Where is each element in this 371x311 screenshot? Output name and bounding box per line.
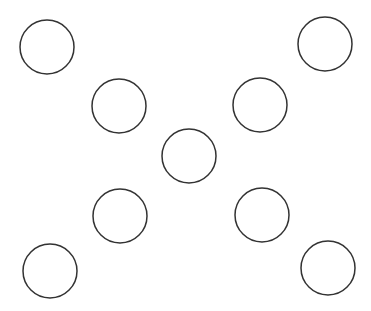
circle-x-pattern (0, 0, 371, 311)
circle-9 (301, 241, 355, 295)
circle-1 (20, 20, 74, 74)
circle-5 (162, 129, 216, 183)
diagram-canvas (0, 0, 371, 311)
circle-3 (298, 17, 352, 71)
circle-4 (233, 78, 287, 132)
circle-6 (93, 189, 147, 243)
circle-2 (92, 79, 146, 133)
circle-8 (23, 244, 77, 298)
circle-7 (235, 188, 289, 242)
